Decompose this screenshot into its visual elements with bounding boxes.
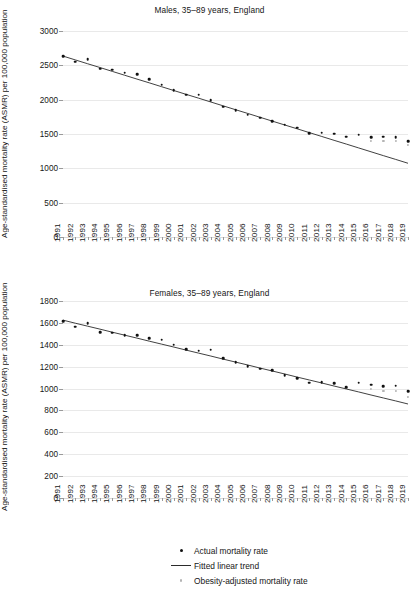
x-tick-mark: [186, 237, 187, 240]
x-tick-mark: [260, 498, 261, 501]
x-tick-mark: [63, 237, 64, 240]
x-tick-mark: [297, 498, 298, 501]
x-tick-label: 1991: [53, 223, 62, 242]
data-point-actual: [111, 68, 114, 71]
y-tick-label: 800: [44, 406, 63, 415]
legend-item-trend: Fitted linear trend: [0, 558, 419, 573]
y-tick-label: 3000: [40, 27, 63, 36]
plot-area-males: 0500100015002000250030001991199219931994…: [63, 31, 408, 237]
data-point-actual: [234, 109, 237, 112]
chart-panel-females: Females, 35–89 years, England Age-standa…: [0, 283, 419, 515]
x-tick-mark: [88, 498, 89, 501]
y-tick-label: 1400: [40, 340, 63, 349]
data-point-actual: [86, 58, 89, 61]
data-point-actual: [210, 99, 213, 102]
legend-item-actual: Actual mortality rate: [0, 543, 419, 558]
x-tick-mark: [162, 237, 163, 240]
x-tick-mark: [125, 237, 126, 240]
data-point-actual: [283, 374, 286, 377]
data-point-actual: [123, 334, 126, 337]
x-tick-mark: [334, 498, 335, 501]
x-tick-mark: [125, 498, 126, 501]
data-point-actual: [185, 93, 188, 96]
y-tick-label: 1800: [40, 297, 63, 306]
legend-label-actual: Actual mortality rate: [194, 546, 268, 556]
data-point-actual: [160, 83, 163, 86]
data-point-actual: [160, 339, 163, 342]
legend-item-obesity: Obesity-adjusted mortality rate: [0, 573, 419, 588]
y-tick-label: 400: [44, 450, 63, 459]
x-tick-mark: [199, 498, 200, 501]
data-point-actual: [394, 136, 397, 139]
data-point-actual: [259, 368, 262, 371]
y-tick-label: 2500: [40, 61, 63, 70]
x-tick-mark: [346, 498, 347, 501]
data-point-actual: [210, 348, 213, 351]
x-tick-mark: [162, 498, 163, 501]
x-tick-mark: [199, 237, 200, 240]
x-tick-mark: [75, 237, 76, 240]
x-tick-mark: [272, 237, 273, 240]
data-point-actual: [173, 343, 176, 346]
x-tick-mark: [63, 498, 64, 501]
x-tick-mark: [88, 237, 89, 240]
x-tick-mark: [223, 237, 224, 240]
data-point-actual: [320, 131, 323, 134]
data-point-actual: [148, 78, 151, 81]
data-point-obesity-adjusted: [407, 396, 409, 398]
data-point-actual: [62, 55, 65, 58]
x-tick-mark: [236, 237, 237, 240]
data-point-actual: [62, 320, 65, 323]
x-tick-mark: [334, 237, 335, 240]
x-tick-mark: [149, 498, 150, 501]
fitted-trend-line: [63, 31, 408, 237]
y-tick-label: 600: [44, 428, 63, 437]
data-point-actual: [136, 334, 139, 337]
data-point-actual: [148, 337, 151, 340]
legend-label-obesity: Obesity-adjusted mortality rate: [194, 576, 308, 586]
y-axis-label-females: Age-standardised mortality rate (ASMR) p…: [0, 321, 14, 511]
data-point-actual: [370, 383, 373, 386]
data-point-actual: [382, 385, 385, 388]
x-tick-mark: [309, 498, 310, 501]
data-point-actual: [382, 135, 385, 138]
data-point-actual: [283, 123, 286, 126]
y-tick-label: 1000: [40, 384, 63, 393]
data-point-actual: [197, 93, 200, 96]
x-tick-mark: [223, 498, 224, 501]
figure-legend: Actual mortality rate Fitted linear tren…: [0, 543, 419, 588]
x-tick-mark: [112, 237, 113, 240]
x-tick-mark: [383, 237, 384, 240]
legend-dot-black-icon: [168, 549, 194, 552]
data-point-actual: [234, 361, 237, 364]
data-point-actual: [99, 331, 102, 334]
legend-label-trend: Fitted linear trend: [194, 561, 259, 571]
data-point-actual: [136, 73, 139, 76]
data-point-actual: [173, 89, 176, 92]
x-tick-mark: [383, 498, 384, 501]
y-tick-label: 2000: [40, 95, 63, 104]
data-point-actual: [74, 325, 77, 328]
y-axis-label-males: Age-standardised mortality rate (ASMR) p…: [0, 48, 14, 238]
x-tick-mark: [236, 498, 237, 501]
y-tick-label: 200: [44, 472, 63, 481]
x-tick-mark: [371, 498, 372, 501]
data-point-actual: [370, 136, 373, 139]
x-tick-mark: [272, 498, 273, 501]
data-point-actual: [222, 357, 225, 360]
data-point-actual: [333, 382, 336, 385]
data-point-actual: [74, 60, 77, 63]
data-point-actual: [247, 113, 250, 116]
data-point-obesity-adjusted: [407, 144, 409, 146]
figure-mortality-trends: Males, 35–89 years, England Age-standard…: [0, 0, 419, 600]
data-point-actual: [222, 105, 225, 108]
y-tick-label: 1500: [40, 130, 63, 139]
data-point-actual: [247, 365, 250, 368]
data-point-actual: [296, 377, 299, 380]
y-tick-label: 1000: [40, 164, 63, 173]
data-point-actual: [308, 381, 311, 384]
data-point-actual: [86, 322, 89, 325]
plot-area-females: 0200400600800100012001400160018001991199…: [63, 301, 408, 498]
x-tick-mark: [371, 237, 372, 240]
data-point-actual: [345, 386, 348, 389]
